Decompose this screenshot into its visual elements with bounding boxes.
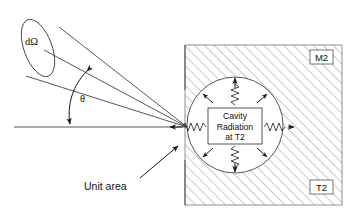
unit-area-label: Unit area	[84, 180, 127, 192]
cavity-radiation-line-3: at T2	[225, 132, 245, 142]
cavity-radiation-line-2: Radiation	[217, 122, 254, 132]
theta-angle: θ	[69, 71, 87, 124]
solid-angle-cone: dΩ	[15, 15, 187, 127]
cavity-radiation-diagram: Cavity Radiation at T2 dΩ θ Unit a	[0, 0, 354, 215]
unit-area-leader	[140, 146, 178, 178]
cavity-radiation-line-1: Cavity	[223, 111, 248, 121]
block-tag-t2-text: T2	[316, 182, 327, 193]
block-tag-m2-text: M2	[315, 52, 328, 63]
block-tag-t2: T2	[310, 180, 333, 194]
cone-upper-edge	[59, 27, 187, 127]
cavity-radiation-label: Cavity Radiation at T2	[208, 108, 262, 144]
unit-area-callout: Unit area	[84, 146, 178, 192]
cone-aperture-ellipse	[15, 15, 62, 81]
block-tag-m2: M2	[310, 50, 333, 64]
figure-canvas: Cavity Radiation at T2 dΩ θ Unit a	[0, 0, 354, 215]
theta-label: θ	[80, 93, 85, 104]
solid-angle-label: dΩ	[25, 36, 38, 47]
